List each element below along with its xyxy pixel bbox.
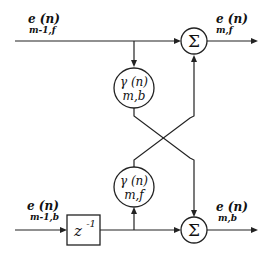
gamma-b-label: γ (n): [120, 75, 148, 89]
gamma-b-sub: m,b: [123, 89, 146, 103]
arrow-into-bottom-sum: [191, 210, 197, 217]
forward-output-sub: m,f: [216, 25, 235, 36]
arrow-into-gamma-b: [131, 60, 137, 67]
forward-output-arrow: [251, 38, 258, 44]
delay-exponent: -1: [86, 218, 96, 229]
delay-z: z: [73, 222, 82, 240]
gamma-f-label: γ (n): [120, 174, 148, 188]
lattice-diagram: Σ γ (n) m,b γ (n) m,f z -1 Σ e (n) m-1,f…: [0, 0, 276, 256]
arrow-into-bottom-sum-horizontal: [174, 227, 181, 233]
arrow-into-delay: [60, 227, 67, 233]
backward-input-sub: m-1,b: [30, 212, 59, 223]
backward-input-label: e (n): [27, 199, 59, 213]
top-sigma-symbol: Σ: [188, 31, 200, 51]
arrow-into-gamma-f: [131, 207, 137, 214]
arrow-into-top-sum: [174, 38, 181, 44]
forward-input-sub: m-1,f: [29, 25, 58, 36]
backward-output-arrow: [251, 227, 258, 233]
backward-output-sub: m,b: [218, 213, 237, 224]
gamma-f-sub: m,f: [124, 188, 146, 202]
forward-output-label: e (n): [216, 12, 248, 26]
bottom-sigma-symbol: Σ: [188, 220, 200, 240]
backward-output-label: e (n): [216, 200, 248, 214]
forward-input-label: e (n): [28, 12, 60, 26]
arrow-into-top-sum-vertical: [191, 55, 197, 62]
